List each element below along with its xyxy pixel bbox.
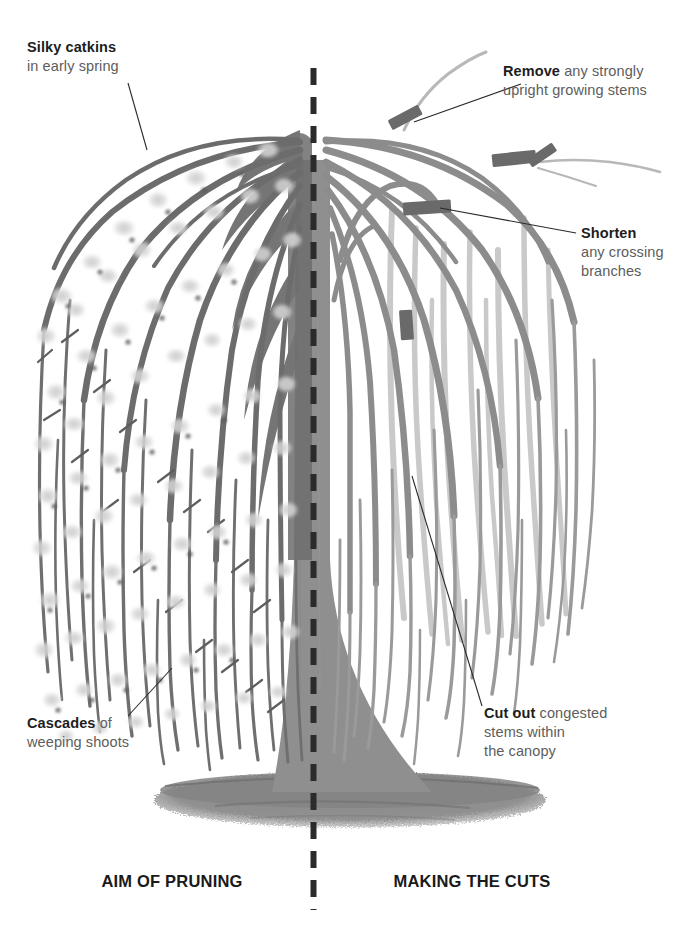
caption-making-the-cuts: MAKING THE CUTS <box>322 872 622 891</box>
callout-remove-line1: Remove any strongly <box>503 62 647 81</box>
tree-illustration <box>0 0 695 928</box>
callout-remove-line2: upright growing stems <box>503 81 647 100</box>
callout-cut-out: Cut out congested stems within the canop… <box>484 704 607 761</box>
callout-silky-lead-line: Silky catkins <box>27 38 119 57</box>
callout-cascades-line1: Cascades of <box>27 714 129 733</box>
callout-cascades: Cascades of weeping shoots <box>27 714 129 752</box>
caption-aim-of-pruning: AIM OF PRUNING <box>22 872 322 891</box>
callout-silky-catkins: Silky catkins in early spring <box>27 38 119 76</box>
cut-mark-crossing-upper <box>491 150 536 168</box>
callout-shorten: Shorten any crossing branches <box>581 224 664 281</box>
callout-cutout-line1: Cut out congested <box>484 704 607 723</box>
callout-cutout-line3: the canopy <box>484 742 607 761</box>
leader-cut-out <box>412 476 482 706</box>
callout-shorten-line2: any crossing <box>581 243 664 262</box>
callout-cutout-line2: stems within <box>484 723 607 742</box>
callout-cascades-line2: weeping shoots <box>27 733 129 752</box>
cut-mark-lower-stem <box>399 310 414 341</box>
callout-silky-line2: in early spring <box>27 57 119 76</box>
pruning-diagram: Silky catkins in early spring Cascades o… <box>0 0 695 928</box>
left-canopy-flowering <box>30 130 312 770</box>
right-canopy-bare <box>326 52 660 764</box>
leader-silky-catkins <box>128 83 147 150</box>
callout-shorten-line3: branches <box>581 262 664 281</box>
callout-remove: Remove any strongly upright growing stem… <box>503 62 647 100</box>
callout-shorten-line1: Shorten <box>581 224 664 243</box>
